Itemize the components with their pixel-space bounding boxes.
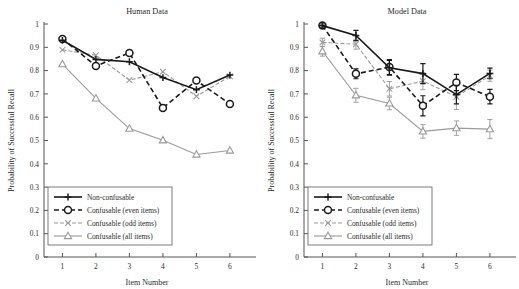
svg-text:0: 0 [35, 253, 39, 262]
svg-text:Confusable (odd items): Confusable (odd items) [347, 219, 417, 228]
svg-text:Confusable (all items): Confusable (all items) [347, 232, 413, 241]
svg-text:0.1: 0.1 [289, 229, 299, 238]
svg-text:1: 1 [295, 20, 299, 29]
svg-text:4: 4 [421, 262, 425, 271]
svg-text:5: 5 [195, 262, 199, 271]
figure-container: 00.10.20.30.40.50.60.70.80.91123456Human… [0, 0, 519, 289]
svg-text:0.4: 0.4 [289, 160, 299, 169]
svg-text:2: 2 [94, 262, 98, 271]
panel-model-data: 00.10.20.30.40.50.60.70.80.91123456Model… [260, 0, 519, 289]
svg-text:Non-confusable: Non-confusable [87, 193, 135, 202]
svg-text:0: 0 [295, 253, 299, 262]
svg-text:0.9: 0.9 [30, 43, 40, 52]
svg-text:0.8: 0.8 [289, 66, 299, 75]
svg-text:0.6: 0.6 [30, 113, 40, 122]
svg-text:Model Data: Model Data [387, 7, 426, 16]
svg-text:0.6: 0.6 [289, 113, 299, 122]
svg-text:0.7: 0.7 [289, 90, 299, 99]
svg-text:0.2: 0.2 [30, 206, 40, 215]
svg-text:1: 1 [61, 262, 65, 271]
svg-text:Item Number: Item Number [385, 278, 428, 287]
svg-text:2: 2 [354, 262, 358, 271]
svg-text:3: 3 [128, 262, 132, 271]
svg-text:Human Data: Human Data [126, 7, 168, 16]
svg-text:3: 3 [387, 262, 391, 271]
svg-text:4: 4 [161, 262, 165, 271]
svg-text:0.8: 0.8 [30, 66, 40, 75]
svg-text:Item Number: Item Number [126, 278, 169, 287]
panel-human-data: 00.10.20.30.40.50.60.70.80.91123456Human… [0, 0, 260, 289]
svg-text:0.5: 0.5 [30, 136, 40, 145]
svg-text:Confusable (even items): Confusable (even items) [87, 206, 160, 215]
svg-text:Probability of Successful Reca: Probability of Successful Recall [267, 88, 276, 192]
svg-text:0.4: 0.4 [30, 160, 40, 169]
svg-text:Non-confusable: Non-confusable [347, 193, 395, 202]
svg-text:Confusable (all items): Confusable (all items) [87, 232, 153, 241]
svg-text:Confusable (odd items): Confusable (odd items) [87, 219, 157, 228]
svg-text:0.3: 0.3 [289, 183, 299, 192]
svg-text:0.7: 0.7 [30, 90, 40, 99]
svg-text:5: 5 [454, 262, 458, 271]
svg-text:0.9: 0.9 [289, 43, 299, 52]
svg-text:6: 6 [488, 262, 492, 271]
svg-text:0.1: 0.1 [30, 229, 40, 238]
svg-text:Confusable (even items): Confusable (even items) [347, 206, 420, 215]
svg-text:0.5: 0.5 [289, 136, 299, 145]
svg-text:1: 1 [35, 20, 39, 29]
svg-text:Probability of Successful Reca: Probability of Successful Recall [7, 88, 16, 192]
svg-text:6: 6 [228, 262, 232, 271]
svg-text:0.3: 0.3 [30, 183, 40, 192]
svg-text:1: 1 [320, 262, 324, 271]
svg-text:0.2: 0.2 [289, 206, 299, 215]
